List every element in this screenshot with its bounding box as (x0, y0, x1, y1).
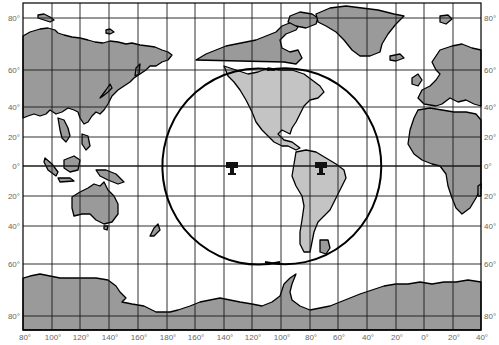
lat-label-left: 20° (0, 192, 20, 201)
lat-label-right: 80° (484, 312, 496, 321)
lat-label-right: 40° (484, 103, 496, 112)
lon-label: 140° (102, 333, 119, 342)
lat-label-left: 20° (0, 133, 20, 142)
lon-label: 40° (362, 333, 374, 342)
lat-label-right: 20° (484, 192, 496, 201)
lon-label: 140° (217, 333, 234, 342)
lon-label: 80° (19, 333, 31, 342)
lat-label-right: 40° (484, 222, 496, 231)
lat-label-left: 80° (0, 312, 20, 321)
lon-label: 80° (305, 333, 317, 342)
tasmania (104, 226, 108, 230)
lat-label-right: 0° (484, 162, 492, 171)
java (58, 178, 74, 182)
lat-label-right: 60° (484, 260, 496, 269)
lon-label: 160° (131, 333, 148, 342)
lat-label-left: 60° (0, 260, 20, 269)
lat-label-right: 60° (484, 66, 496, 75)
borneo (64, 156, 80, 172)
lon-label: 180° (160, 333, 177, 342)
lon-label: 100° (45, 333, 62, 342)
lon-label: 120° (245, 333, 262, 342)
lon-label: 20° (448, 333, 460, 342)
lon-label: 160° (188, 333, 205, 342)
lat-label-left: 40° (0, 103, 20, 112)
lon-label: 60° (333, 333, 345, 342)
lat-label-left: 0° (0, 162, 20, 171)
lon-label: 20° (391, 333, 403, 342)
lon-label: 120° (73, 333, 90, 342)
lat-label-left: 60° (0, 66, 20, 75)
lon-label: 0° (421, 333, 429, 342)
lat-label-left: 80° (0, 14, 20, 23)
lat-label-right: 80° (484, 14, 496, 23)
lat-label-left: 40° (0, 222, 20, 231)
world-map (0, 0, 499, 345)
lon-label: 40° (476, 333, 488, 342)
lon-label: 100° (274, 333, 291, 342)
lat-label-right: 20° (484, 133, 496, 142)
